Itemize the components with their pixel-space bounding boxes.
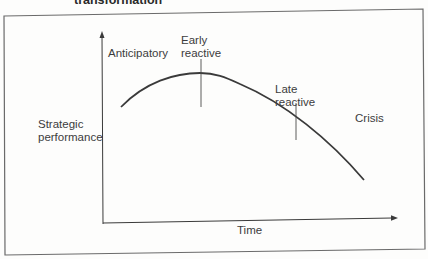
late-reactive-line1: Late <box>275 83 315 96</box>
late-reactive-line2: reactive <box>275 96 315 109</box>
y-axis-label-line1: Strategic <box>38 118 103 131</box>
x-axis-label: Time <box>237 224 262 237</box>
y-axis-label: Strategic performance <box>38 118 103 144</box>
x-axis <box>103 218 392 223</box>
phase-label-early-reactive: Early reactive <box>181 34 221 60</box>
early-reactive-line1: Early <box>181 34 221 47</box>
phase-label-late-reactive: Late reactive <box>275 83 315 109</box>
x-axis-arrow-icon <box>391 215 398 220</box>
early-reactive-line2: reactive <box>181 47 221 60</box>
phase-label-crisis: Crisis <box>355 112 384 125</box>
y-axis-arrow-icon <box>100 31 105 38</box>
phase-label-anticipatory: Anticipatory <box>108 47 168 60</box>
performance-curve <box>121 73 364 180</box>
y-axis-label-line2: performance <box>38 131 103 144</box>
